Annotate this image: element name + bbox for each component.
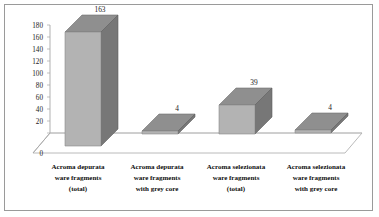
y-tick-140: 140 xyxy=(32,46,43,54)
category-label-2-line-1: Acroma depurata xyxy=(131,163,184,171)
category-label-2: Acroma depurata ware fragments with grey… xyxy=(131,163,184,193)
category-label-2-line-3: with grey core xyxy=(136,185,179,193)
category-label-1: Acroma depurata ware fragments (total) xyxy=(52,163,105,193)
category-label-3-line-3: (total) xyxy=(227,185,246,193)
category-label-1-line-1: Acroma depurata xyxy=(52,163,105,171)
category-label-4: Acroma selezionata ware fragments with g… xyxy=(287,163,346,193)
category-label-1-line-2: ware fragments xyxy=(55,174,102,182)
value-label-bar-2: 4 xyxy=(175,104,179,113)
y-tick-20: 20 xyxy=(36,118,44,126)
y-tick-120: 120 xyxy=(32,58,43,66)
category-label-1-line-3: (total) xyxy=(69,185,88,193)
category-label-4-line-1: Acroma selezionata xyxy=(287,163,346,171)
value-label-bar-1: 163 xyxy=(94,5,105,14)
y-axis-tick-labels: 180 160 140 120 100 80 60 40 20 0 xyxy=(32,22,43,158)
bar-chart-3d: 180 160 140 120 100 80 60 40 20 0 xyxy=(5,5,372,210)
category-label-4-line-2: ware fragments xyxy=(293,174,340,182)
bar-acroma-selezionata-grey-core[interactable] xyxy=(295,113,348,133)
value-label-bar-3: 39 xyxy=(250,78,258,87)
y-tick-100: 100 xyxy=(32,70,43,78)
data-value-labels: 163 4 39 4 xyxy=(94,5,332,113)
category-label-2-line-2: ware fragments xyxy=(134,174,181,182)
y-tick-180: 180 xyxy=(32,22,43,30)
category-label-3: Acroma selezionata ware fragments (total… xyxy=(207,163,266,193)
bar-acroma-depurata-total[interactable] xyxy=(65,15,118,146)
y-tick-60: 60 xyxy=(36,94,44,102)
chart-frame: 180 160 140 120 100 80 60 40 20 0 xyxy=(4,4,373,211)
category-label-3-line-1: Acroma selezionata xyxy=(207,163,266,171)
category-label-3-line-2: ware fragments xyxy=(213,174,260,182)
bar-acroma-selezionata-total[interactable] xyxy=(219,88,272,134)
value-label-bar-4: 4 xyxy=(328,103,332,112)
y-tick-0: 0 xyxy=(39,150,43,158)
y-tick-160: 160 xyxy=(32,34,43,42)
y-tick-80: 80 xyxy=(36,82,44,90)
y-tick-40: 40 xyxy=(36,106,44,114)
bar-acroma-depurata-grey-core[interactable] xyxy=(142,114,195,134)
category-label-4-line-3: with grey core xyxy=(295,185,338,193)
